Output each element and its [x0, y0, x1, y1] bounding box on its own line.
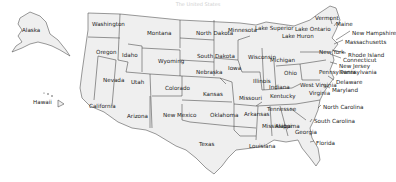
label-kansas: Kansas: [203, 92, 223, 98]
label-oklahoma: Oklahoma: [210, 113, 238, 119]
label-hawaii: Hawaii: [33, 100, 52, 106]
label-lake-huron: Lake Huron: [282, 34, 314, 40]
label-texas: Texas: [199, 142, 214, 148]
label-alaska: Alaska: [22, 28, 40, 34]
label-lake-ontario: Lake Ontario: [295, 27, 331, 33]
label-montana: Montana: [147, 31, 171, 37]
label-delaware: Delaware: [336, 80, 362, 86]
label-new-mexico: New Mexico: [163, 113, 197, 119]
label-ohio: Ohio: [284, 71, 297, 77]
label-louisiana: Louisiana: [249, 144, 275, 150]
label-colorado: Colorado: [165, 86, 190, 92]
label-south-dakota: South Dakota: [197, 54, 235, 60]
label-iowa: Iowa: [228, 66, 241, 72]
label-utah: Utah: [131, 80, 144, 86]
label-maine: Maine: [336, 22, 353, 28]
label-south-carolina: South Carolina: [314, 119, 355, 125]
label-tennessee: Tennessee: [267, 107, 296, 113]
label-new-hampshire: New Hampshire: [352, 31, 396, 37]
label-indiana: Indiana: [269, 85, 290, 91]
label-north-carolina: North Carolina: [323, 105, 363, 111]
label-minnesota: Minnesota: [228, 28, 257, 34]
label-new-york: New York: [319, 50, 345, 56]
label-nebraska: Nebraska: [196, 70, 222, 76]
hawaii-shape: [58, 100, 64, 107]
label-arizona: Arizona: [127, 114, 148, 120]
alaska-shape: [12, 12, 70, 56]
label-nevada: Nevada: [103, 78, 124, 84]
label-arkansas: Arkansas: [244, 112, 270, 118]
label-georgia: Georgia: [295, 130, 317, 136]
label-michigan: Michigan: [270, 58, 295, 64]
label-wyoming: Wyoming: [158, 59, 184, 65]
label-lake-superior: Lake Superior: [255, 26, 293, 32]
label-virginia: Virginia: [309, 91, 330, 97]
label-oregon: Oregon: [96, 50, 117, 56]
label-idaho: Idaho: [122, 53, 138, 59]
label-missouri: Missouri: [239, 96, 262, 102]
label-maryland: Maryland: [332, 88, 358, 94]
label-pennsylvania: Pennsylvania: [340, 70, 377, 76]
label-florida: Florida: [316, 141, 335, 147]
label-kentucky: Kentucky: [270, 94, 296, 100]
label-massachusetts: Massachusetts: [345, 40, 386, 46]
label-california: California: [89, 104, 116, 110]
label-washington: Washington: [92, 22, 125, 28]
